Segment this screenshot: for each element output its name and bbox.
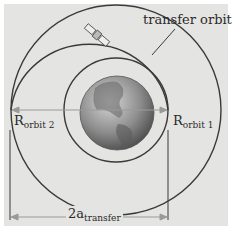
earth-icon xyxy=(80,76,154,150)
major-axis-label: 2atransfer xyxy=(66,206,123,223)
r-orbit2-label: Rorbit 2 xyxy=(14,113,54,130)
major-axis-main: 2a xyxy=(68,206,84,221)
r-orbit2-main: R xyxy=(14,113,24,128)
r-orbit1-main: R xyxy=(173,113,183,128)
r-orbit1-label: Rorbit 1 xyxy=(173,113,213,130)
satellite-icon xyxy=(84,23,111,47)
major-axis-sub: transfer xyxy=(84,213,121,223)
transfer-orbit-label: transfer orbit xyxy=(143,12,232,27)
r-orbit1-sub: orbit 1 xyxy=(183,120,214,130)
diagram-frame: transfer orbit Rorbit 2 Rorbit 1 2atrans… xyxy=(0,0,234,230)
r-orbit2-sub: orbit 2 xyxy=(24,120,55,130)
label-leader xyxy=(152,29,175,55)
